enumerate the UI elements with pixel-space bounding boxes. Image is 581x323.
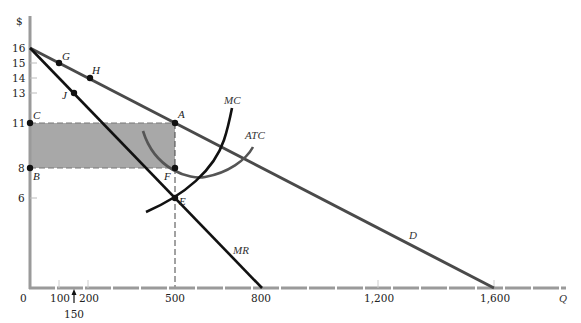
x-tick-200: 200 — [79, 292, 99, 304]
x-tick-1600: 1,600 — [480, 292, 510, 304]
x-tick-1200: 1,200 — [364, 292, 394, 304]
x-axis-label: Q — [559, 292, 567, 304]
y-tick-13: 13 — [12, 87, 25, 99]
monopoly-diagram: $ Q 16 15 14 13 11 8 6 0 100 200 500 800… — [0, 0, 581, 323]
point-c-label: C — [33, 109, 41, 121]
point-j-label: J — [62, 89, 68, 101]
demand-label: D — [408, 229, 417, 241]
mc-label: MC — [223, 94, 241, 106]
x-tick-0: 0 — [20, 292, 27, 304]
point-g-label: G — [62, 50, 70, 62]
y-tick-11: 11 — [12, 117, 25, 129]
mr-label: MR — [232, 244, 249, 256]
point-e-label: E — [178, 195, 186, 207]
point-f-label: F — [163, 170, 171, 182]
atc-label: ATC — [244, 129, 265, 141]
point-h-label: H — [91, 64, 101, 76]
x-annotation-150: 150 — [64, 308, 84, 320]
y-tick-14: 14 — [12, 72, 26, 84]
point-a — [172, 120, 178, 126]
point-j — [71, 90, 77, 96]
point-e — [172, 195, 178, 201]
x-tick-800: 800 — [251, 292, 271, 304]
point-b-label: B — [33, 170, 40, 182]
profit-area — [30, 123, 175, 168]
arrow-up-icon — [72, 289, 77, 303]
y-tick-6: 6 — [18, 192, 25, 204]
y-tick-15: 15 — [12, 57, 25, 69]
y-tick-8: 8 — [18, 162, 25, 174]
x-tick-500: 500 — [165, 292, 185, 304]
y-axis-label: $ — [16, 15, 23, 27]
point-f — [172, 165, 178, 171]
x-tick-100: 100 — [50, 292, 70, 304]
y-tick-16: 16 — [12, 42, 26, 54]
point-a-label: A — [177, 108, 185, 120]
